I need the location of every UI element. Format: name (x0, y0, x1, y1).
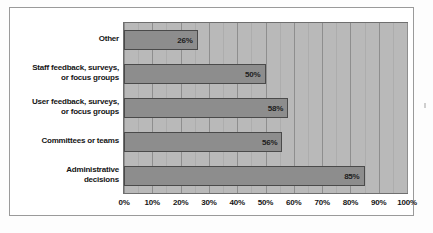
bar[interactable]: 58% (124, 98, 288, 118)
category-axis-labels: OtherStaff feedback, surveys,or focus gr… (19, 22, 123, 194)
category-label: Committees or teams (19, 136, 119, 147)
chart-frame: 26%50%58%56%85% OtherStaff feedback, sur… (9, 7, 414, 216)
x-tick-label: 90% (371, 198, 386, 207)
x-tick-label: 50% (258, 198, 273, 207)
x-tick-label: 10% (145, 198, 160, 207)
category-label-line: decisions (19, 175, 119, 186)
bar-row: 58% (124, 91, 407, 125)
bar-row: 50% (124, 57, 407, 91)
chart-page: 26%50%58%56%85% OtherStaff feedback, sur… (0, 0, 433, 233)
bar[interactable]: 85% (124, 166, 365, 186)
category-label: Other (19, 34, 119, 45)
bar-row: 56% (124, 125, 407, 159)
major-gridline-100 (407, 23, 408, 193)
bar-value-label: 58% (268, 104, 287, 113)
category-label-line: or focus groups (19, 107, 119, 118)
category-label-line: Other (19, 34, 119, 45)
bar-row: 26% (124, 23, 407, 57)
plot-area: 26%50%58%56%85% (123, 22, 408, 194)
category-label: Administrativedecisions (19, 165, 119, 186)
bar[interactable]: 26% (124, 30, 198, 50)
bar-value-label: 50% (245, 70, 264, 79)
bar-value-label: 26% (177, 36, 196, 45)
x-tick-label: 70% (314, 198, 329, 207)
category-label-line: Committees or teams (19, 136, 119, 147)
bar-series: 26%50%58%56%85% (124, 23, 407, 193)
category-label: Staff feedback, surveys,or focus groups (19, 63, 119, 84)
x-tick-label: 0% (118, 198, 129, 207)
category-label-line: User feedback, surveys, (19, 97, 119, 108)
bar[interactable]: 50% (124, 64, 266, 84)
scan-artifact (424, 103, 426, 108)
bar-row: 85% (124, 159, 407, 193)
x-tick-label: 20% (173, 198, 188, 207)
x-axis-tick-labels: 0%10%20%30%40%50%60%70%80%90%100% (123, 198, 408, 212)
x-tick-label: 60% (286, 198, 301, 207)
bar-value-label: 56% (262, 138, 281, 147)
category-label-line: Staff feedback, surveys, (19, 63, 119, 74)
category-label: User feedback, surveys,or focus groups (19, 97, 119, 118)
x-tick-label: 100% (397, 198, 417, 207)
bar-value-label: 85% (344, 172, 363, 181)
category-label-line: Administrative (19, 165, 119, 176)
x-tick-label: 80% (343, 198, 358, 207)
category-label-line: or focus groups (19, 73, 119, 84)
x-tick-label: 40% (229, 198, 244, 207)
bar[interactable]: 56% (124, 132, 282, 152)
x-tick-label: 30% (201, 198, 216, 207)
